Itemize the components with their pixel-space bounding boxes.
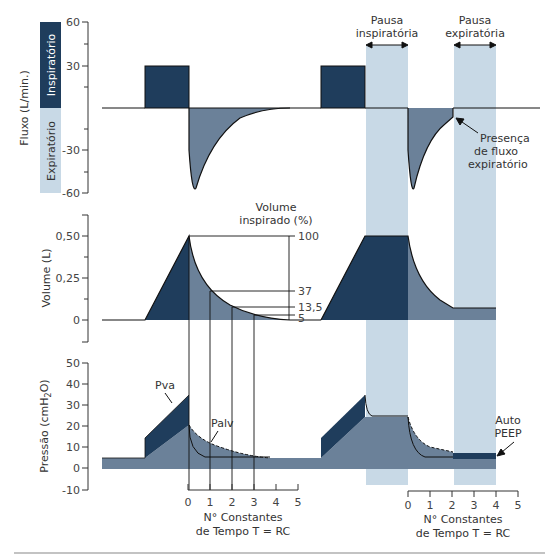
label-peep: PEEP xyxy=(494,427,522,440)
flow-insp-2 xyxy=(321,66,365,108)
vol-tick-050: 0,50 xyxy=(56,230,81,243)
flow-exp-1 xyxy=(189,108,290,189)
flow-insp-1 xyxy=(145,66,189,108)
flow-tick-60: 60 xyxy=(66,16,80,29)
p-tick-10: 10 xyxy=(66,441,80,454)
t2-title-2: de Tempo T = RC xyxy=(416,527,511,540)
band-inspiratory-label: Inspiratório xyxy=(45,33,58,96)
presenca-line3: expiratório xyxy=(468,158,528,171)
p-tick-50: 50 xyxy=(66,357,80,370)
flow-tick-neg30: -30 xyxy=(62,144,80,157)
flow-tick-neg60: -60 xyxy=(62,187,80,200)
p-tick-0: 0 xyxy=(73,462,80,475)
label-palv: Palv xyxy=(211,417,234,430)
ventilation-diagram: Inspiratório Expiratório Fluxo (L/min.) … xyxy=(0,0,559,560)
t2-tick-2: 2 xyxy=(449,499,456,512)
t2-tick-4: 4 xyxy=(493,499,500,512)
t1-tick-5: 5 xyxy=(295,496,302,509)
peep-band xyxy=(102,458,496,469)
p-tick-40: 40 xyxy=(66,378,80,391)
pausa-exp-line2: expiratória xyxy=(445,27,505,40)
vol-insp-2 xyxy=(321,236,408,320)
label-auto: Auto xyxy=(495,414,521,427)
t2-tick-0: 0 xyxy=(405,499,412,512)
flow-tick-30: 30 xyxy=(66,60,80,73)
t2-tick-5: 5 xyxy=(515,499,522,512)
flow-ticks xyxy=(82,22,88,193)
t1-tick-4: 4 xyxy=(273,496,280,509)
vol-pct-37: 37 xyxy=(298,285,312,298)
t2-title-1: N° Constantes xyxy=(423,513,502,526)
t1-tick-2: 2 xyxy=(229,496,236,509)
t1-tick-1: 1 xyxy=(207,496,214,509)
t1-title-2: de Tempo T = RC xyxy=(196,525,291,538)
vol-percent-title-1: Volume xyxy=(256,201,297,214)
band-expiratory-label: Expiratório xyxy=(45,121,58,181)
vol-pct-5: 5 xyxy=(298,312,305,325)
pressure-ylabel: Pressão (cmH2O) xyxy=(38,379,53,472)
p-tick-neg10: -10 xyxy=(62,484,80,497)
vol-pct-100: 100 xyxy=(298,230,319,243)
vol-tick-025: 0,25 xyxy=(56,272,81,285)
time-axis-1 xyxy=(188,484,298,490)
pausa-exp-line1: Pausa xyxy=(459,14,491,27)
pausa-insp-line1: Pausa xyxy=(371,14,403,27)
auto-peep-area xyxy=(453,453,496,459)
t2-tick-3: 3 xyxy=(471,499,478,512)
auto-peep-arrow-icon xyxy=(497,442,514,456)
vol-percent-title-2: inspirado (%) xyxy=(239,214,312,227)
flow-ylabel: Fluxo (L/min.) xyxy=(18,70,31,145)
time-axis-2 xyxy=(408,491,518,497)
t1-tick-0: 0 xyxy=(185,496,192,509)
t1-title-1: N° Constantes xyxy=(203,511,282,524)
p-tick-30: 30 xyxy=(66,399,80,412)
volume-ylabel: Volume (L) xyxy=(40,248,53,307)
label-pva: Pva xyxy=(155,379,175,392)
pausa-insp-line2: inspiratória xyxy=(356,27,418,40)
t1-tick-3: 3 xyxy=(251,496,258,509)
presenca-line2: de fluxo xyxy=(474,145,518,158)
pause-band-expiratory xyxy=(454,45,496,485)
flow-exp-2 xyxy=(408,108,453,189)
presenca-line1: Presença xyxy=(480,132,530,145)
vol-tick-0: 0 xyxy=(73,314,80,327)
t2-tick-1: 1 xyxy=(427,499,434,512)
p-tick-20: 20 xyxy=(66,420,80,433)
